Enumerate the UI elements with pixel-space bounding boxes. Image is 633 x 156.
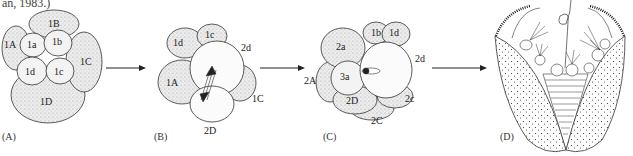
cell-label: 1B [48,18,60,29]
cell-label: 1C [252,93,264,104]
cell-label: 3a [340,71,350,82]
right-ciliary-band [590,6,624,36]
cell-label: 2a [336,41,346,52]
arrow-b-to-c [260,65,305,71]
cleavage-diagram: 1B 1A 1a 1b 1C 1d 1c 1D (A) 1d 1c 2d 1A … [0,0,633,156]
cell-label: 2D [346,95,358,106]
cell-label: 1a [27,39,37,50]
panel-b: 1d 1c 2d 1A 1C 2D (B) [154,24,264,143]
arrow-c-to-d [432,65,487,71]
cell-label: 1d [389,27,399,38]
cell-label: 2D [204,125,216,136]
panel-label-a: (A) [2,131,16,143]
cell-label: 1b [52,36,62,47]
cell-label: 1c [205,29,215,40]
panel-a: 1B 1A 1a 1b 1C 1d 1c 1D (A) [2,10,102,143]
left-ciliary-band [496,6,530,36]
cell-label: 1c [54,66,64,77]
cell-label: 2C [371,115,383,126]
cell-label: 1b [371,27,381,38]
cell-label: 1d [25,66,35,77]
cell-label: 2c [405,93,415,104]
cell-label: 1C [80,56,92,67]
cell-label: 2d [241,42,251,53]
panel-c: 2a 1b 1d 2d 2A 3a 2D 2c 2C (C) [304,22,425,143]
panel-label-c: (C) [323,131,336,143]
panel-label-b: (B) [154,131,167,143]
panel-d: (D) [495,0,625,152]
cell-label: 2d [415,53,425,64]
mitotic-spindle [362,68,380,74]
cell-label: 1A [4,39,17,50]
cell-label: 1D [40,96,52,107]
cell-label: 1A [166,77,179,88]
cell-label: 1d [173,37,183,48]
cell-2D [190,86,234,122]
arrow-a-to-b [106,65,146,71]
cell-label: 2A [304,75,317,86]
panel-label-d: (D) [500,131,514,143]
